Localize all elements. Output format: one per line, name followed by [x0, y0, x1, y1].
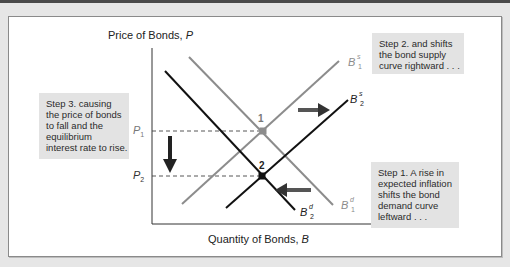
- step-3-line: equilibrium: [46, 131, 122, 142]
- step-1-line: shifts the bond: [378, 189, 452, 200]
- d2-sub: 2: [310, 213, 314, 220]
- s2-sub: 2: [360, 100, 364, 107]
- s2-sup: s: [359, 90, 363, 97]
- d1-sup: d: [350, 196, 354, 203]
- p1-subscript: 1: [140, 131, 144, 138]
- step-3-line: Step 3. causing: [46, 98, 122, 109]
- y-axis-variable: P: [186, 29, 193, 41]
- d1-letter: B: [341, 199, 348, 211]
- p2-tick-label: P2: [133, 169, 144, 183]
- price-down-arrow-icon: [163, 136, 177, 173]
- step-3-line: interest rate to rise.: [46, 142, 122, 153]
- s1-letter: B: [348, 56, 355, 68]
- demand-curve-2-label: B d 2: [300, 206, 307, 218]
- x-axis-variable: B: [302, 233, 309, 245]
- demand-curve-1-label: B d 1: [341, 199, 348, 211]
- step-2-line: curve rightward . . .: [379, 60, 457, 71]
- x-axis-label-text: Quantity of Bonds,: [208, 233, 302, 245]
- supply-shift-arrow-icon: [298, 103, 330, 117]
- demand-curve-2: [165, 71, 295, 210]
- step-2-line: the bond supply: [379, 49, 457, 60]
- step-1-line: Step 1. A rise in: [378, 167, 452, 178]
- s1-sub: 1: [358, 63, 362, 70]
- d1-sub: 1: [351, 206, 355, 213]
- equilibrium-label-2: 2: [259, 160, 265, 171]
- step-1-line: demand curve: [378, 200, 452, 211]
- supply-curve-2-label: B s 2: [350, 93, 357, 105]
- equilibrium-point-2: [259, 173, 266, 180]
- d2-letter: B: [300, 206, 307, 218]
- y-axis-label-text: Price of Bonds,: [108, 29, 186, 41]
- step-1-note: Step 1. A rise in expected inflation shi…: [371, 162, 459, 228]
- s1-sup: s: [357, 53, 361, 60]
- step-1-line: expected inflation: [378, 178, 452, 189]
- step-3-note: Step 3. causing the price of bonds to fa…: [39, 93, 129, 159]
- step-2-note: Step 2. and shifts the bond supply curve…: [372, 33, 464, 74]
- step-3-line: to fall and the: [46, 120, 122, 131]
- p2-subscript: 2: [140, 176, 144, 183]
- step-1-line: leftward . . .: [378, 211, 452, 222]
- x-axis-label: Quantity of Bonds, B: [208, 233, 309, 245]
- p1-tick-label: P1: [133, 124, 144, 138]
- step-3-line: the price of bonds: [46, 109, 122, 120]
- equilibrium-point-1: [260, 128, 267, 135]
- equilibrium-label-1: 1: [258, 113, 264, 124]
- supply-curve-1-label: B s 1: [348, 56, 355, 68]
- d2-sup: d: [309, 203, 313, 210]
- y-axis-label: Price of Bonds, P: [108, 29, 193, 41]
- s2-letter: B: [350, 93, 357, 105]
- step-2-line: Step 2. and shifts: [379, 38, 457, 49]
